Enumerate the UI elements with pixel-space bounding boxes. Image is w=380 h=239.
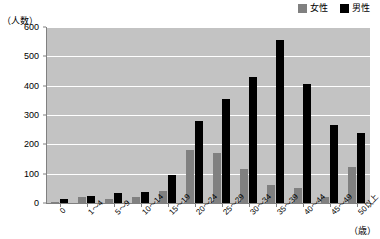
bar-group [343, 27, 370, 203]
y-tick-label: 500 [24, 51, 39, 61]
y-tick-label: 600 [24, 22, 39, 32]
x-axis-ticks: 01〜45〜910〜1415〜1920〜2425〜2930〜3435〜3940〜… [46, 204, 370, 239]
bar-group [100, 27, 127, 203]
bar-male[interactable] [222, 99, 230, 203]
x-tick-slot: 40〜44 [289, 204, 316, 239]
x-tick-label: 0 [58, 206, 68, 216]
y-tick-mark [43, 27, 46, 28]
bar-male[interactable] [249, 77, 257, 203]
bar-group [73, 27, 100, 203]
bar-group [46, 27, 73, 203]
chart-legend: 女性 男性 [298, 2, 370, 14]
legend-item-female: 女性 [298, 4, 328, 13]
legend-label-female: 女性 [310, 4, 328, 13]
bar-group [181, 27, 208, 203]
legend-item-male: 男性 [340, 4, 370, 13]
bar-group [127, 27, 154, 203]
y-tick-label: 300 [24, 110, 39, 120]
x-tick-slot: 10〜14 [127, 204, 154, 239]
x-tick-slot: 20〜24 [181, 204, 208, 239]
x-tick-slot: 45〜49 [316, 204, 343, 239]
y-tick-mark [43, 56, 46, 57]
bar-male[interactable] [276, 40, 284, 203]
plot-area [46, 27, 370, 203]
y-tick-label: 0 [34, 198, 39, 208]
x-tick-slot: 30〜34 [235, 204, 262, 239]
bar-group [235, 27, 262, 203]
bar-group [208, 27, 235, 203]
y-tick-mark [43, 173, 46, 174]
bar-male[interactable] [357, 133, 365, 203]
y-axis-line [46, 27, 47, 204]
y-tick-mark [43, 115, 46, 116]
bar-male[interactable] [303, 84, 311, 203]
legend-swatch-female [298, 4, 307, 13]
y-tick-mark [43, 144, 46, 145]
legend-swatch-male [340, 4, 349, 13]
x-tick-slot: 50以上 [343, 204, 370, 239]
x-tick-slot: 25〜29 [208, 204, 235, 239]
bar-male[interactable] [195, 121, 203, 203]
x-tick-slot: 0 [46, 204, 73, 239]
bar-group [154, 27, 181, 203]
x-tick-slot: 5〜9 [100, 204, 127, 239]
bar-group [289, 27, 316, 203]
bar-male[interactable] [330, 125, 338, 203]
y-axis-ticks: 0100200300400500600 [0, 27, 43, 203]
y-tick-label: 400 [24, 81, 39, 91]
y-tick-mark [43, 85, 46, 86]
x-tick-slot: 1〜4 [73, 204, 100, 239]
y-tick-label: 200 [24, 139, 39, 149]
bar-group [316, 27, 343, 203]
y-tick-label: 100 [24, 169, 39, 179]
bar-group [262, 27, 289, 203]
x-tick-slot: 15〜19 [154, 204, 181, 239]
legend-label-male: 男性 [352, 4, 370, 13]
bar-series-container [46, 27, 370, 203]
x-tick-slot: 35〜39 [262, 204, 289, 239]
